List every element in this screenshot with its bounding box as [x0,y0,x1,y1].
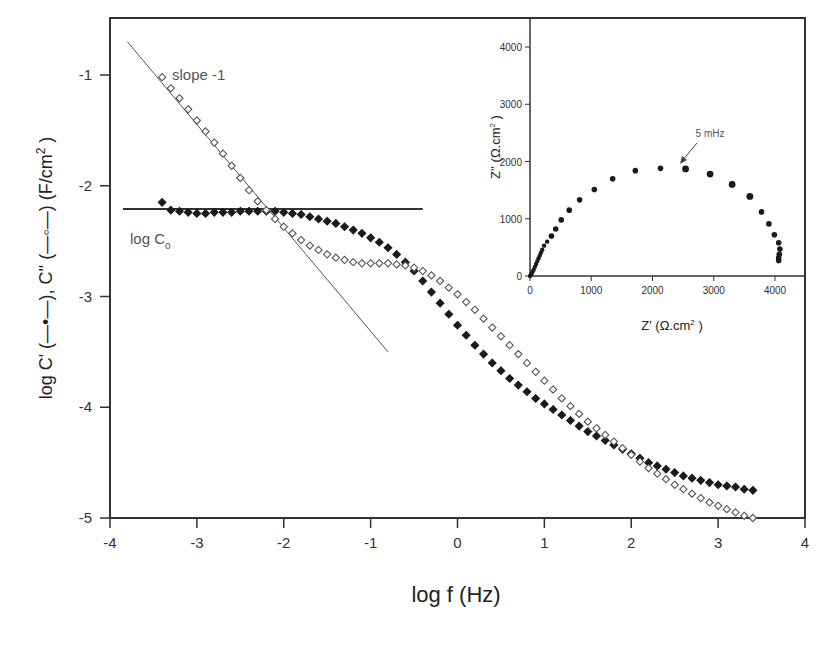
open-marker [697,494,704,501]
legend-line-open: —◦— [36,211,56,253]
nyquist-point [577,197,583,203]
filled-marker [662,465,670,473]
inset-y-axis-title: Z'' (Ω.cm2 ) [488,115,503,179]
open-marker [532,368,539,375]
open-marker [671,481,678,488]
open-marker [706,499,713,506]
filled-marker [706,479,714,487]
filled-marker [523,388,531,396]
filled-marker [193,210,201,218]
open-marker [602,431,609,438]
filled-marker [462,331,470,339]
inset-xlabel-text: Z' (Ω.cm [641,318,690,333]
x-tick-label: -4 [103,534,116,551]
open-marker [428,272,435,279]
open-marker [576,410,583,417]
x-tick-label: -2 [277,534,290,551]
filled-marker [532,395,540,403]
nyquist-point [553,226,559,232]
filled-marker [593,432,601,440]
filled-marker [367,234,375,242]
nyquist-point [776,258,782,264]
svg-text:Z'' (Ω.cm2 ): Z'' (Ω.cm2 ) [488,115,503,179]
filled-marker [497,367,505,375]
inset-x-axis: 01000200030004000 [527,276,786,296]
filled-marker [714,481,722,489]
open-marker [367,260,374,267]
inset-ylabel-close: ) [488,115,503,123]
filled-marker [332,220,340,228]
filled-marker [419,277,427,285]
open-marker [541,377,548,384]
inset-xlabel-close: ) [695,318,703,333]
filled-marker [688,474,696,482]
open-marker [497,333,504,340]
filled-marker [558,411,566,419]
log-co-subscript: o [165,240,171,251]
open-marker [654,470,661,477]
nyquist-point [729,181,736,188]
filled-marker [445,310,453,318]
open-marker [549,386,556,393]
filled-marker [697,477,705,485]
open-marker [584,418,591,425]
open-marker [324,251,331,258]
open-marker [358,260,365,267]
filled-marker [167,206,175,214]
filled-marker [732,483,740,491]
nyquist-point [545,239,549,243]
filled-marker [680,472,688,480]
filled-marker [202,210,210,218]
nyquist-point [610,176,616,182]
nyquist-point [766,221,772,227]
filled-marker [671,469,679,477]
open-marker [454,291,461,298]
filled-marker [289,210,297,218]
filled-marker [323,217,331,225]
open-marker [489,324,496,331]
filled-marker [749,487,757,495]
filled-marker [158,199,166,207]
open-marker [245,187,252,194]
open-marker [688,490,695,497]
open-marker [523,359,530,366]
log-co-annotation: log Co [130,230,171,251]
nyquist-point [682,166,689,173]
open-marker [211,139,218,146]
filled-marker [384,244,392,252]
open-marker [437,277,444,284]
open-marker [350,259,357,266]
nyquist-point [746,193,753,200]
inset-y-tick-label: 0 [516,271,522,282]
open-marker [219,150,226,157]
inset-ylabel-text: Z'' (Ω.cm [488,127,503,179]
open-marker [393,261,400,268]
open-marker [271,215,278,222]
y-tick-label: -3 [79,288,92,305]
open-marker [506,342,513,349]
chart-canvas: -4-3-2-101234 -1-2-3-4-5 slope -1 log Co… [0,0,835,651]
inset-x-tick-label: 3000 [703,285,726,296]
open-marker [463,298,470,305]
nyquist-point [558,217,564,223]
main-y-axis: -1-2-3-4-5 [79,66,110,526]
nyquist-point [566,207,572,213]
filled-marker [740,485,748,493]
inset-x-tick-label: 0 [527,285,533,296]
inset-x-tick-label: 1000 [580,285,603,296]
filled-marker [723,482,731,490]
inset-background [530,18,805,276]
nyquist-point [658,166,664,172]
open-marker [298,236,305,243]
filled-marker [549,406,557,414]
nyquist-point [592,187,598,193]
open-marker [376,260,383,267]
svg-text:log C' (—•—), C'' (—◦—) (F/cm2: log C' (—•—), C'' (—◦—) (F/cm2 ) [34,137,56,400]
open-marker [732,509,739,516]
y-tick-label: -2 [79,177,92,194]
open-marker [202,128,209,135]
open-marker [254,198,261,205]
filled-marker [436,299,444,307]
open-marker [237,174,244,181]
filled-marker [515,381,523,389]
